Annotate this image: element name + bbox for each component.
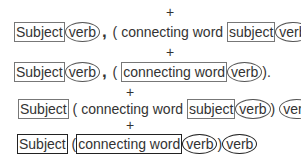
connecting-word-box: connecting word <box>121 62 227 82</box>
subject-box: Subject <box>14 22 65 42</box>
open-paren-connecting-word: ( connecting word <box>69 101 187 117</box>
connecting-word: connecting word <box>78 136 180 152</box>
inner-verb-oval: verb <box>182 134 217 154</box>
connecting-word-box: connecting word <box>76 134 182 154</box>
inner-verb-oval: verb <box>275 22 301 42</box>
subject-box: Subject <box>14 62 65 82</box>
plus-sign-2: + <box>166 45 174 59</box>
comma: , <box>102 22 107 41</box>
comma: , <box>102 62 107 81</box>
inner-verb-oval: verb <box>235 99 270 119</box>
open-paren: ( <box>109 64 121 80</box>
plus-sign-3: + <box>126 85 134 99</box>
close-paren: ). <box>262 64 271 80</box>
verb-oval: verb <box>65 22 100 42</box>
inner-subject-box: subject <box>187 99 235 119</box>
close-paren: ) <box>271 101 280 117</box>
subject-box: Subject <box>17 134 68 154</box>
open-paren: ( <box>68 136 77 152</box>
sentence-row-4: Subject (connecting word verb)verb <box>17 134 257 154</box>
connecting-word: connecting word <box>123 64 225 80</box>
verb-oval: verb <box>279 99 301 119</box>
inner-verb-oval: verb <box>227 62 262 82</box>
sentence-row-3: Subject ( connecting word subjectverb) v… <box>18 99 301 119</box>
open-paren: ( <box>109 24 121 40</box>
inner-subject-box: subject <box>227 22 275 42</box>
sentence-row-1: Subjectverb, ( connecting word subjectve… <box>14 22 301 42</box>
plus-sign-4: + <box>126 118 134 132</box>
connecting-word: connecting word <box>121 24 227 40</box>
plus-sign-1: + <box>166 5 174 19</box>
verb-oval: verb <box>222 134 257 154</box>
sentence-row-2: Subjectverb, ( connecting word verb). <box>14 62 271 82</box>
subject-box: Subject <box>18 99 69 119</box>
verb-oval: verb <box>65 62 100 82</box>
